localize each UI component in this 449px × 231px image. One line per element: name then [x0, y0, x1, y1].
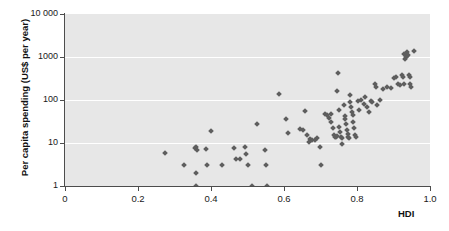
x-tick-mark: [211, 186, 212, 191]
data-point: [340, 141, 346, 147]
x-tick-label: 1.0: [410, 193, 449, 204]
data-point: [350, 112, 356, 118]
data-point: [329, 120, 335, 126]
x-tick-label: 0.2: [118, 193, 158, 204]
data-point: [334, 88, 340, 94]
data-point: [317, 144, 323, 150]
x-axis-line: [64, 186, 431, 187]
y-tick-mark: [60, 143, 65, 144]
gridline: [65, 100, 430, 101]
data-point: [243, 151, 249, 157]
gridline: [65, 57, 430, 58]
data-point: [208, 128, 214, 134]
data-point: [285, 130, 291, 136]
y-tick-label: 100: [43, 95, 58, 104]
data-point: [347, 92, 353, 98]
x-tick-mark: [138, 186, 139, 191]
x-tick-mark: [357, 186, 358, 191]
data-point: [336, 107, 342, 113]
data-point: [366, 109, 372, 115]
plot-area: [65, 14, 430, 186]
data-point: [300, 127, 306, 133]
data-point: [194, 147, 200, 153]
y-tick-mark: [60, 57, 65, 58]
data-point: [242, 144, 248, 150]
data-point: [375, 103, 381, 109]
data-point: [411, 48, 417, 54]
x-tick-mark: [430, 186, 431, 191]
x-tick-mark: [65, 186, 66, 191]
x-tick-label-wrap: 0.8: [337, 193, 377, 204]
data-point: [245, 163, 251, 169]
y-tick-label: 1000: [38, 52, 58, 61]
data-point: [237, 156, 243, 162]
data-point: [356, 107, 362, 113]
y-tick-label-wrap: 1: [0, 181, 58, 190]
scatter-chart-figure: 110100100010 000 00.20.40.60.81.0 Per ca…: [0, 0, 449, 231]
data-point: [203, 146, 209, 152]
data-point: [346, 135, 352, 141]
data-point: [193, 170, 199, 176]
x-axis-label: HDI: [398, 208, 414, 219]
x-tick-label: 0.8: [337, 193, 377, 204]
data-point: [318, 163, 324, 169]
data-point: [353, 134, 359, 140]
x-tick-label-wrap: 0.4: [191, 193, 231, 204]
data-point: [231, 145, 237, 151]
x-tick-label: 0.4: [191, 193, 231, 204]
y-tick-label: 10 000: [30, 9, 58, 18]
x-tick-label-wrap: 0.2: [118, 193, 158, 204]
data-point: [341, 103, 347, 109]
data-point: [408, 84, 414, 90]
y-tick-mark: [60, 100, 65, 101]
data-point: [302, 108, 308, 114]
x-tick-label: 0.6: [264, 193, 304, 204]
y-tick-mark: [60, 14, 65, 15]
x-tick-mark: [284, 186, 285, 191]
data-point: [264, 163, 270, 169]
data-point: [362, 94, 368, 100]
y-tick-label: 10: [48, 138, 58, 147]
data-point: [163, 150, 169, 156]
data-point: [181, 163, 187, 169]
data-point: [335, 70, 341, 76]
data-point: [219, 163, 225, 169]
data-point: [276, 92, 282, 98]
x-tick-label-wrap: 0: [45, 193, 85, 204]
x-tick-label-wrap: 0.6: [264, 193, 304, 204]
data-point: [205, 163, 211, 169]
data-point: [262, 147, 268, 153]
data-point: [254, 122, 260, 128]
gridline: [65, 143, 430, 144]
data-point: [351, 125, 357, 131]
data-point: [283, 116, 289, 122]
x-tick-label: 0: [45, 193, 85, 204]
x-tick-label-wrap: 1.0: [410, 193, 449, 204]
data-point: [373, 84, 379, 90]
y-tick-label: 1: [53, 181, 58, 190]
y-axis-label: Per capita spending (US$ per year): [19, 18, 30, 178]
